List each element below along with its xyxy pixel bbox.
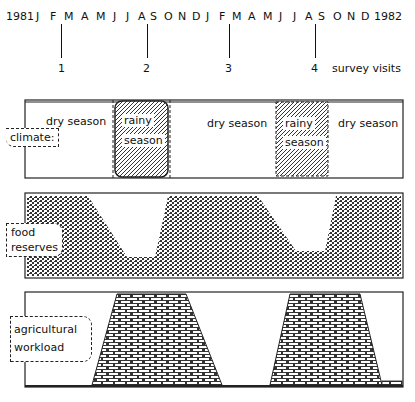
climate-callout: climate: — [6, 128, 59, 147]
climate-panel — [25, 100, 403, 178]
dry-season-label: dry season — [207, 117, 267, 130]
rainy-season-label: season — [283, 136, 326, 149]
rainy-season-label: rainy — [283, 117, 315, 130]
workload-label-line1: agricultural — [14, 321, 88, 339]
dry-season-label: dry season — [338, 117, 398, 130]
food-panel — [25, 193, 403, 278]
food-label-line2: reserves — [11, 240, 58, 255]
food-reserves-callout: food reserves — [6, 223, 63, 257]
rainy-season-label: rainy — [122, 114, 154, 127]
rainy-season-label: season — [122, 134, 165, 147]
dry-season-label: dry season — [46, 115, 106, 128]
workload-label-line2: workload — [14, 339, 88, 357]
climate-label: climate: — [10, 131, 54, 144]
agricultural-workload-callout: agricultural workload — [10, 316, 92, 362]
food-label-line1: food — [11, 225, 58, 240]
